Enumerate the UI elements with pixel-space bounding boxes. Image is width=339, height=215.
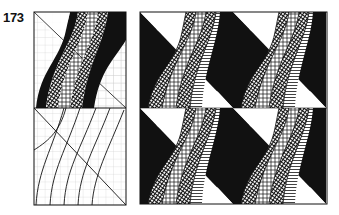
left-panel: [34, 12, 126, 205]
right-panel: [140, 12, 327, 204]
figure-artwork: [0, 0, 339, 215]
